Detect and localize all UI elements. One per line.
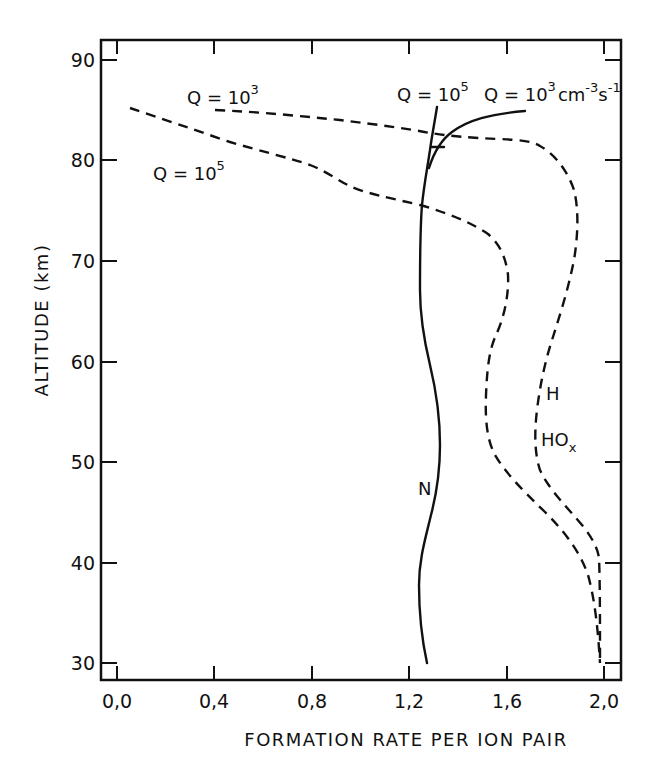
label-n: N: [418, 478, 431, 499]
x-ticks-bottom: [117, 666, 604, 680]
plot-frame: [101, 40, 621, 680]
label-q1e3-left: Q = 103: [187, 82, 259, 108]
label-q1e5-top: Q = 105: [397, 79, 469, 105]
y-ticks-right: [605, 60, 621, 663]
y-tick-60: 60: [71, 351, 95, 373]
x-tick-0-4: 0,4: [199, 690, 229, 712]
x-tick-0-8: 0,8: [297, 690, 327, 712]
y-axis-title: ALTITUDE (km): [31, 244, 52, 397]
y-tick-30: 30: [71, 652, 95, 674]
curve-n: [419, 107, 440, 663]
chart-figure: 90 80 70 60 50 40 30 0,0 0,4 0,8 1,2 1,6…: [0, 0, 655, 775]
y-tick-80: 80: [71, 149, 95, 171]
x-tick-labels: 0,0 0,4 0,8 1,2 1,6 2,0: [102, 690, 619, 712]
x-axis-title: FORMATION RATE PER ION PAIR: [244, 729, 567, 750]
y-tick-40: 40: [71, 552, 95, 574]
y-ticks-left: [101, 60, 117, 663]
x-tick-0-0: 0,0: [102, 690, 132, 712]
x-tick-2-0: 2,0: [589, 690, 619, 712]
x-tick-1-2: 1,2: [394, 690, 424, 712]
y-tick-90: 90: [71, 49, 95, 71]
label-h: H: [546, 383, 560, 404]
label-q1e5-left: Q = 105: [153, 158, 225, 184]
label-hox: HOx: [541, 429, 577, 455]
curve-hox-q1e5: [130, 108, 600, 663]
y-tick-70: 70: [71, 250, 95, 272]
curve-hox-q1e3: [215, 110, 600, 663]
y-tick-50: 50: [71, 451, 95, 473]
x-tick-1-6: 1,6: [492, 690, 522, 712]
label-q1e3-top: Q = 103cm-3s-1: [484, 79, 621, 105]
x-ticks-top: [117, 40, 604, 54]
y-tick-labels: 90 80 70 60 50 40 30: [71, 49, 95, 674]
